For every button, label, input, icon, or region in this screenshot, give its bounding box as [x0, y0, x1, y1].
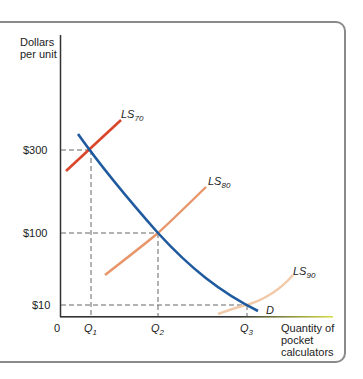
y-axis-label-line2: per unit [20, 48, 57, 60]
y-tick-100: $100 [23, 227, 47, 239]
x-axis-label-line1: Quantity of [281, 322, 334, 334]
x-axis-label-line2: pocket [281, 334, 334, 346]
x-axis-label-line3: calculators [281, 346, 334, 358]
x-tick-q2: Q2 [151, 322, 164, 339]
y-axis-label: Dollars per unit [20, 36, 57, 60]
y-axis-label-line1: Dollars [20, 36, 57, 48]
y-tick-10: $10 [32, 299, 50, 311]
ls90-label: LS90 [293, 265, 315, 282]
x-axis-label: Quantity of pocket calculators [281, 322, 334, 358]
demand-label: D [266, 304, 274, 316]
x-axis [60, 316, 333, 318]
y-tick-300: $300 [23, 144, 47, 156]
ls70-curve [66, 120, 121, 171]
x-tick-q1: Q1 [84, 322, 97, 339]
x-tick-q3: Q3 [240, 322, 253, 339]
x-tick-origin: 0 [54, 322, 60, 334]
ls70-label: LS70 [121, 108, 143, 125]
ls80-label: LS80 [208, 175, 230, 192]
